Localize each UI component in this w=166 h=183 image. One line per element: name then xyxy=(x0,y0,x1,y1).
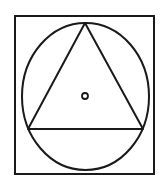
center-point xyxy=(82,93,88,99)
outer-square xyxy=(15,16,154,174)
geometry-diagram xyxy=(0,0,166,183)
circumscribed-ellipse xyxy=(22,23,149,170)
